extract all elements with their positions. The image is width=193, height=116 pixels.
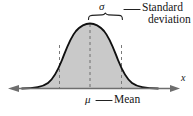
mean-label: Mean [114,94,140,106]
x-axis-label: x [181,73,185,83]
x-axis-left-arrowhead [8,85,19,92]
standard-deviation-label-line1: Standard [142,1,183,13]
x-axis-right-arrowhead [170,85,180,92]
normal-distribution-figure: σ Standarddeviation μ Mean x [0,0,193,116]
sigma-symbol-label: σ [99,1,104,12]
mu-symbol-label: μ [85,94,91,105]
standard-deviation-label-line2: deviation [148,14,191,26]
standard-deviation-label: Standarddeviation [142,2,191,25]
sigma-brace [89,13,123,20]
